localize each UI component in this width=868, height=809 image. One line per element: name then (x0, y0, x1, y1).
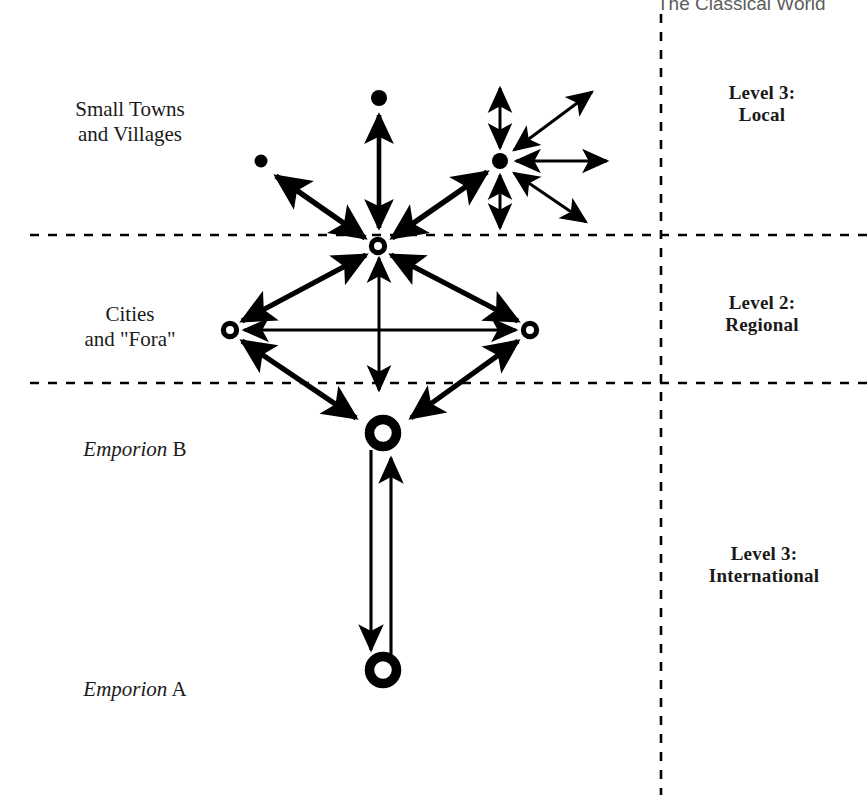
tier-label-cities-fora: Cities and "Fora" (30, 302, 230, 352)
level-label-regional: Level 2: Regional (662, 292, 862, 337)
edge-dot-right-down-right (514, 173, 586, 222)
node-dot-left (255, 155, 268, 168)
level-label-local: Level 3: Local (662, 82, 862, 127)
emporion-b-italic: Emporion (83, 437, 167, 461)
emporion-b-roman: B (167, 437, 186, 461)
emporion-a-roman: A (167, 677, 186, 701)
edge-ring-left-emporion-b (242, 341, 356, 418)
edge-group-local (276, 115, 487, 238)
edge-ring-top-ring-left (242, 255, 366, 321)
level-label-international: Level 3: International (662, 543, 866, 588)
edge-ring-top-ring-right (391, 255, 518, 321)
node-dot-right (492, 153, 508, 169)
edge-group-international (371, 450, 391, 658)
edge-group-dot-right-radiating (500, 88, 607, 228)
node-ring-emporion-b (370, 420, 397, 447)
emporion-a-italic: Emporion (83, 677, 167, 701)
node-ring-right (523, 323, 536, 336)
node-dot-top (371, 90, 387, 106)
figure-canvas: The Classical World (0, 0, 868, 809)
tier-label-small-towns: Small Towns and Villages (30, 97, 230, 147)
tier-label-emporion-a: Emporion A (35, 652, 235, 702)
node-ring-emporion-a (370, 657, 397, 684)
node-ring-top (371, 239, 384, 252)
edge-ring-right-emporion-b (411, 341, 518, 418)
edge-dot-right-up-right (514, 92, 592, 150)
edge-dot-left-ring-top (276, 176, 365, 238)
tier-label-emporion-b: Emporion B (35, 412, 235, 462)
edge-group-regional (242, 255, 518, 418)
edge-dot-right-ring-top (392, 172, 487, 238)
